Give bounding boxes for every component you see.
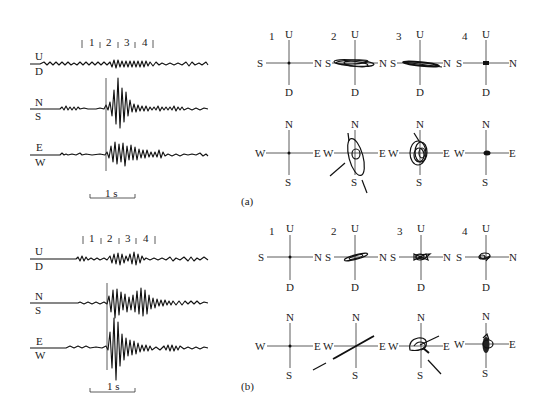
panel-b: 1 2 3 4 U D N S E W 1 s [30, 222, 517, 393]
svg-text:1: 1 [269, 225, 275, 237]
svg-text:N: N [482, 310, 490, 322]
window-label-4: 4 [142, 36, 148, 48]
hodogram-a-h2: N S W E [323, 118, 386, 193]
svg-text:4: 4 [462, 225, 468, 237]
hodogram-b-v2: 2 U D S N [325, 222, 387, 293]
channel-label-w: W [35, 349, 46, 361]
hodogram-b-h2: N S W E [313, 311, 386, 381]
svg-text:S: S [351, 176, 357, 188]
svg-text:2: 2 [331, 30, 337, 42]
svg-text:E: E [509, 147, 516, 159]
svg-text:W: W [255, 340, 266, 352]
window-markers-a: 1 2 3 4 [82, 36, 153, 48]
svg-text:S: S [352, 369, 358, 381]
svg-text:N: N [443, 251, 451, 263]
window-label-1: 1 [89, 36, 95, 48]
scale-bar-b: 1 s [90, 380, 135, 392]
svg-text:D: D [351, 86, 359, 98]
svg-text:S: S [390, 251, 396, 263]
svg-text:S: S [390, 57, 396, 69]
hodogram-b-v3: 3 U D S N [390, 222, 451, 293]
hodogram-a-v1: 1 U D S N [257, 28, 322, 98]
svg-text:D: D [417, 281, 425, 293]
channel-label-e: E [36, 141, 43, 153]
svg-text:S: S [482, 367, 488, 379]
hodogram-a-v4: 4 U D S N [456, 28, 517, 98]
svg-text:S: S [258, 251, 264, 263]
svg-text:S: S [325, 251, 331, 263]
svg-text:N: N [314, 251, 322, 263]
channel-label-n: N [35, 96, 43, 108]
svg-text:N: N [509, 57, 517, 69]
trace-ew-a [30, 142, 208, 166]
svg-text:N: N [352, 311, 360, 323]
svg-text:N: N [509, 251, 517, 263]
svg-text:W: W [454, 147, 465, 159]
svg-text:S: S [285, 176, 291, 188]
svg-text:S: S [482, 176, 488, 188]
scale-bar-label-b: 1 s [107, 380, 120, 392]
svg-text:S: S [456, 57, 462, 69]
hodogram-a-h1: N S W E [255, 118, 321, 188]
svg-text:W: W [388, 147, 399, 159]
hodogram-a-h4: N S W E [454, 118, 516, 188]
trace-ns-b [30, 288, 208, 318]
svg-text:E: E [443, 147, 450, 159]
svg-text:U: U [417, 222, 425, 234]
svg-text:D: D [482, 86, 490, 98]
hodograms-vertical-b: 1 U D S N 2 U D S N 3 [258, 222, 517, 293]
svg-text:D: D [286, 281, 294, 293]
trace-ud-a [30, 60, 208, 68]
svg-text:4: 4 [462, 30, 468, 42]
svg-text:N: N [443, 57, 451, 69]
svg-text:3: 3 [396, 30, 402, 42]
channel-label-u: U [35, 50, 43, 62]
hodograms-vertical-a: 1 U D S N 2 U D S N [257, 28, 517, 98]
trace-ns-a [30, 78, 208, 128]
svg-text:U: U [482, 222, 490, 234]
seismogram-b: 1 2 3 4 U D N S E W 1 s [30, 232, 208, 392]
svg-text:S: S [456, 251, 462, 263]
svg-text:N: N [351, 118, 359, 130]
svg-text:N: N [416, 118, 424, 130]
hodogram-b-v4: 4 U D S N [456, 222, 517, 293]
channel-label-d: D [35, 65, 43, 77]
panel-a: 1 2 3 4 U D N S E W [30, 28, 517, 208]
svg-text:E: E [314, 340, 321, 352]
svg-text:D: D [482, 281, 490, 293]
svg-text:3: 3 [397, 225, 403, 237]
svg-text:W: W [454, 338, 465, 350]
svg-text:U: U [351, 222, 359, 234]
svg-text:N: N [285, 118, 293, 130]
svg-text:D: D [351, 281, 359, 293]
window-label-2: 2 [106, 36, 112, 48]
svg-text:E: E [443, 340, 450, 352]
channel-label-s: S [35, 110, 41, 122]
svg-text:E: E [314, 147, 321, 159]
channel-label-n: N [35, 290, 43, 302]
hodogram-b-h1: N S W E [255, 311, 321, 381]
svg-text:S: S [257, 57, 263, 69]
svg-text:S: S [325, 57, 331, 69]
scale-bar-label-a: 1 s [105, 187, 118, 199]
svg-text:N: N [314, 57, 322, 69]
hodogram-b-h3: N S W E [388, 311, 450, 381]
svg-text:N: N [417, 311, 425, 323]
channel-label-e: E [36, 335, 43, 347]
svg-text:S: S [286, 369, 292, 381]
trace-ud-b [30, 252, 208, 265]
window-label-3: 3 [125, 232, 131, 244]
seismogram-hodogram-figure: 1 2 3 4 U D N S E W [0, 0, 540, 416]
window-label-3: 3 [124, 36, 130, 48]
channel-label-w: W [35, 156, 46, 168]
svg-text:E: E [509, 338, 516, 350]
hodogram-a-v3: 3 U D S N [390, 28, 451, 98]
svg-text:W: W [388, 340, 399, 352]
svg-text:U: U [285, 28, 293, 40]
svg-text:2: 2 [331, 225, 337, 237]
window-label-1: 1 [89, 232, 95, 244]
svg-text:W: W [255, 147, 266, 159]
svg-text:U: U [351, 28, 359, 40]
svg-text:S: S [417, 369, 423, 381]
hodogram-b-h4: N S W E [454, 310, 516, 379]
